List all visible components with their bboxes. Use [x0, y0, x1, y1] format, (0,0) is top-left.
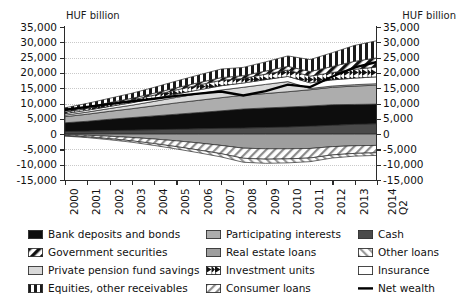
y-tick-right	[377, 149, 381, 150]
legend-swatch-solid-dark	[28, 230, 43, 239]
y-axis-label-right: -10,000	[383, 159, 424, 170]
legend-swatch-solid-midlight	[206, 248, 221, 257]
y-axis-label-right: -15,000	[383, 175, 424, 186]
legend-label: Private pension fund savings	[48, 264, 199, 276]
legend-label: Net wealth	[378, 282, 435, 294]
x-tick	[110, 181, 111, 185]
y-axis-label-left: 30,000	[20, 37, 57, 48]
unit-label-right: HUF billion	[402, 10, 456, 21]
x-axis-label: 2010	[292, 188, 303, 215]
x-axis-label: 2009	[270, 188, 281, 215]
y-tick-right	[377, 88, 381, 89]
y-axis-label-left: 5,000	[27, 113, 57, 124]
y-tick-left	[60, 165, 64, 166]
y-tick-right	[377, 104, 381, 105]
y-tick-left	[60, 134, 64, 135]
y-axis-label-right: 30,000	[383, 37, 420, 48]
legend-label: Other loans	[378, 246, 439, 258]
x-tick	[221, 181, 222, 185]
y-axis-label-left: 10,000	[20, 98, 57, 109]
legend-item[interactable]: Private pension fund savings	[28, 261, 206, 279]
legend-label: Consumer loans	[226, 282, 311, 294]
legend-label: Real estate loans	[226, 246, 316, 258]
y-tick-left	[60, 88, 64, 89]
stacked-area-chart	[65, 27, 377, 180]
x-tick	[288, 181, 289, 185]
y-axis-label-left: 25,000	[20, 52, 57, 63]
x-tick	[310, 181, 311, 185]
legend-label: Insurance	[378, 264, 430, 276]
legend-item[interactable]: Equities, other receivables	[28, 279, 206, 297]
x-tick	[243, 181, 244, 185]
x-tick	[355, 181, 356, 185]
legend-item[interactable]: Government securities	[28, 243, 206, 261]
legend-swatch-solid-mid	[206, 230, 221, 239]
y-tick-left	[60, 27, 64, 28]
chart-screenshot: HUF billion HUF billion	[0, 0, 464, 303]
legend-item[interactable]: Cash	[358, 225, 456, 243]
x-axis-label: 2003	[136, 188, 147, 215]
chart-legend: Bank deposits and bondsParticipating int…	[28, 225, 456, 297]
y-axis-label-right: 5,000	[383, 113, 413, 124]
x-axis-label: 2013	[359, 188, 370, 215]
x-tick	[199, 181, 200, 185]
legend-label: Participating interests	[226, 228, 341, 240]
y-tick-left	[60, 104, 64, 105]
legend-item[interactable]: Consumer loans	[206, 279, 358, 297]
legend-swatch-diag-hatch-dark	[206, 284, 221, 293]
y-tick-left	[60, 180, 64, 181]
y-tick-right	[377, 119, 381, 120]
y-tick-right	[377, 42, 381, 43]
plot-area	[65, 27, 377, 180]
legend-item[interactable]: Bank deposits and bonds	[28, 225, 206, 243]
y-tick-right	[377, 58, 381, 59]
legend-label: Cash	[378, 228, 404, 240]
y-axis-label-right: 35,000	[383, 22, 420, 33]
y-axis-label-left: 35,000	[20, 22, 57, 33]
y-tick-left	[60, 58, 64, 59]
legend-item[interactable]: Participating interests	[206, 225, 358, 243]
legend-swatch-diag-hatch-mid	[358, 248, 373, 257]
legend-swatch-solid-light	[28, 266, 43, 275]
y-axis-label-left: 15,000	[20, 83, 57, 94]
legend-label: Bank deposits and bonds	[48, 228, 180, 240]
x-axis-label: 2007	[225, 188, 236, 215]
y-tick-right	[377, 27, 381, 28]
y-axis-label-left: 0	[50, 129, 57, 140]
y-axis-label-left: -5,000	[23, 144, 57, 155]
y-axis-label-right: 20,000	[383, 67, 420, 78]
x-tick	[87, 181, 88, 185]
legend-swatch-solid-dark2	[358, 230, 373, 239]
x-tick	[332, 181, 333, 185]
x-axis-label: 2011	[314, 188, 325, 215]
x-axis-label: 2014Q2	[387, 188, 408, 215]
unit-label-left: HUF billion	[66, 10, 120, 21]
x-axis-label: 2004	[158, 188, 169, 215]
legend-swatch-vertical-black	[28, 284, 43, 293]
x-axis-label: 2000	[69, 188, 80, 215]
legend-item[interactable]: Other loans	[358, 243, 456, 261]
x-axis-label: 2006	[203, 188, 214, 215]
legend-item[interactable]: Real estate loans	[206, 243, 358, 261]
y-tick-left	[60, 73, 64, 74]
x-tick	[377, 181, 378, 185]
x-axis-label: 2005	[180, 188, 191, 215]
y-tick-right	[377, 134, 381, 135]
x-axis-label: 2002	[114, 188, 125, 215]
y-tick-left	[60, 149, 64, 150]
y-axis-label-right: 15,000	[383, 83, 420, 94]
y-axis-label-left: -15,000	[16, 175, 57, 186]
legend-item[interactable]: Insurance	[358, 261, 456, 279]
legend-label: Investment units	[226, 264, 315, 276]
y-tick-left	[60, 119, 64, 120]
legend-item[interactable]: Investment units	[206, 261, 358, 279]
x-axis-label: 2012	[336, 188, 347, 215]
y-tick-right	[377, 165, 381, 166]
y-tick-left	[60, 42, 64, 43]
legend-item[interactable]: Net wealth	[358, 279, 456, 297]
x-axis-label: 2008	[247, 188, 258, 215]
legend-swatch-wedge-black	[206, 266, 221, 275]
y-axis-label-right: -5,000	[383, 144, 417, 155]
x-tick	[266, 181, 267, 185]
y-axis-label-right: 10,000	[383, 98, 420, 109]
